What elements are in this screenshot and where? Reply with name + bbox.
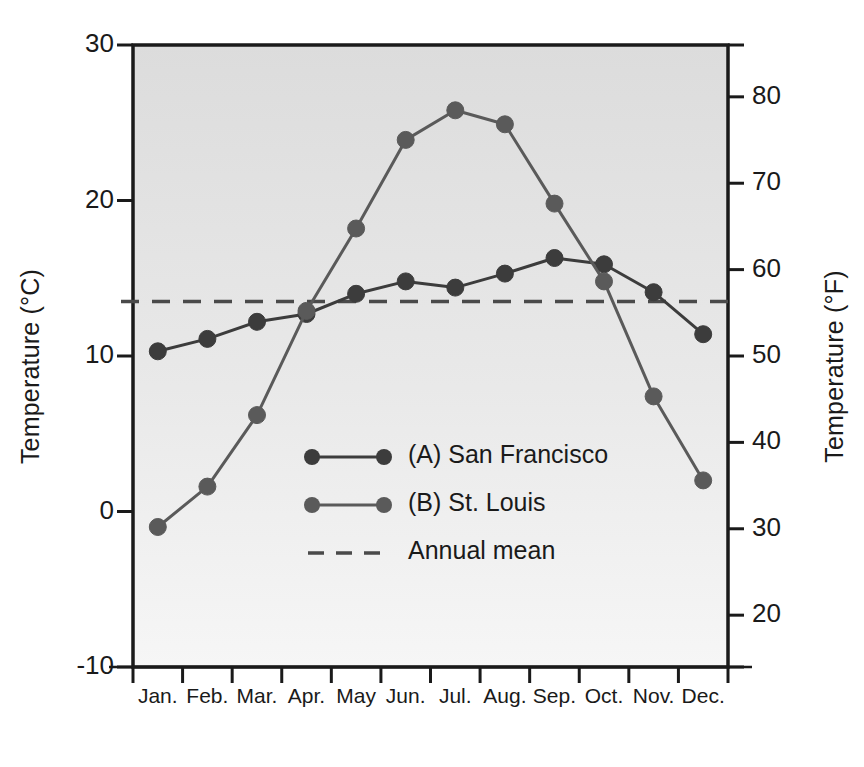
data-point: [199, 330, 216, 347]
data-point: [645, 388, 662, 405]
legend-marker: [304, 497, 320, 513]
data-point: [645, 284, 662, 301]
data-point: [695, 326, 712, 343]
y-axis-right-ticks: [728, 45, 744, 667]
data-point: [546, 195, 563, 212]
y-axis-right-tick-label: 40: [752, 425, 842, 456]
temperature-line-chart: Temperature (°C) Temperature (°F) 302010…: [0, 0, 864, 767]
y-axis-left-ticks: [117, 45, 133, 667]
y-axis-right-tick-label: 80: [752, 80, 842, 111]
data-point: [496, 116, 513, 133]
y-axis-left-tick-label: 20: [24, 184, 114, 215]
plot-background: [133, 45, 728, 667]
data-point: [249, 407, 266, 424]
y-axis-right-tick-label: 20: [752, 598, 842, 629]
data-point: [695, 472, 712, 489]
legend-swatch-3: [300, 538, 396, 568]
y-axis-right-tick-label: 50: [752, 339, 842, 370]
data-point: [546, 250, 563, 267]
legend-marker: [376, 497, 392, 513]
legend-label: Annual mean: [408, 536, 555, 565]
y-axis-right-tick-label: 60: [752, 253, 842, 284]
x-axis-ticks: [109, 667, 752, 683]
y-axis-left-tick-label: -10: [24, 650, 114, 681]
legend-marker: [304, 449, 320, 465]
y-axis-left-tick-label: 0: [24, 495, 114, 526]
data-point: [348, 220, 365, 237]
legend-swatch-2: [300, 490, 396, 520]
data-point: [496, 265, 513, 282]
data-point: [149, 519, 166, 536]
data-point: [249, 313, 266, 330]
y-axis-right-tick-label: 70: [752, 166, 842, 197]
chart-plot-area: [0, 0, 864, 767]
data-point: [447, 279, 464, 296]
data-point: [298, 302, 315, 319]
data-point: [397, 273, 414, 290]
legend-label: (B) St. Louis: [408, 488, 546, 517]
legend-label: (A) San Francisco: [408, 440, 608, 469]
data-point: [397, 131, 414, 148]
y-axis-right-tick-label: 30: [752, 512, 842, 543]
x-axis-month-label: Dec.: [668, 684, 738, 708]
legend-swatch-1: [300, 442, 396, 472]
data-point: [149, 343, 166, 360]
y-axis-left-tick-label: 10: [24, 339, 114, 370]
y-axis-left-tick-label: 30: [24, 28, 114, 59]
legend-marker: [376, 449, 392, 465]
data-point: [199, 478, 216, 495]
data-point: [447, 102, 464, 119]
data-point: [348, 285, 365, 302]
data-point: [596, 273, 613, 290]
